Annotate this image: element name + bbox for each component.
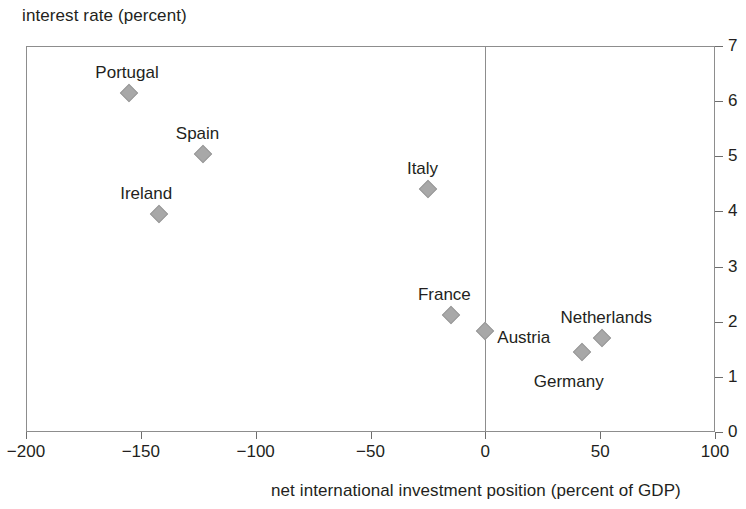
plot-border-left [26, 46, 27, 432]
y-axis-tick [715, 377, 723, 378]
data-point-marker[interactable] [194, 144, 212, 162]
x-axis-tick-label: −200 [7, 442, 45, 462]
y-axis-tick-label: 6 [728, 91, 737, 111]
data-point-marker[interactable] [419, 180, 437, 198]
data-point-label: Spain [176, 124, 219, 143]
data-point-marker[interactable] [593, 329, 611, 347]
x-axis-tick-label: −100 [237, 442, 275, 462]
y-axis-tick [715, 322, 723, 323]
data-point-marker[interactable] [150, 204, 168, 222]
y-axis-tick-label: 2 [728, 312, 737, 332]
y-axis-title: interest rate (percent) [22, 6, 187, 26]
x-axis-tick-label: 100 [701, 442, 729, 462]
zero-reference-line [485, 46, 486, 432]
y-axis-tick-label: 3 [728, 257, 737, 277]
y-axis-tick [715, 432, 723, 433]
data-point-label: Ireland [120, 184, 172, 203]
x-axis-tick [485, 432, 486, 439]
data-point-label: Portugal [95, 63, 158, 82]
data-point-label: Germany [534, 372, 604, 391]
data-point-marker[interactable] [120, 84, 138, 102]
scatter-chart-figure: interest rate (percent) −200−150−100−500… [0, 0, 746, 509]
x-axis-tick [26, 432, 27, 439]
x-axis-tick [256, 432, 257, 439]
data-point-marker[interactable] [442, 306, 460, 324]
y-axis-tick-label: 7 [728, 36, 737, 56]
x-axis-tick [141, 432, 142, 439]
y-axis-tick-label: 5 [728, 146, 737, 166]
data-point-label: Italy [407, 159, 438, 178]
data-point-marker[interactable] [573, 343, 591, 361]
x-axis-tick [371, 432, 372, 439]
data-point-label: Austria [497, 328, 550, 347]
data-point-label: France [418, 285, 471, 304]
plot-area: −200−150−100−50050100 01234567 PortugalS… [26, 46, 715, 432]
x-axis-tick [600, 432, 601, 439]
y-axis-tick-label: 0 [728, 422, 737, 442]
x-axis-title: net international investment position (p… [271, 481, 681, 501]
y-axis-tick [715, 156, 723, 157]
y-axis-line [714, 46, 715, 432]
x-axis-tick [715, 432, 716, 439]
data-point-marker[interactable] [476, 322, 494, 340]
y-axis-tick [715, 211, 723, 212]
x-axis-tick-label: 0 [481, 442, 490, 462]
y-axis-tick-label: 4 [728, 201, 737, 221]
plot-border-top [26, 46, 715, 47]
x-axis-tick-label: 50 [591, 442, 610, 462]
data-point-label: Netherlands [560, 308, 652, 327]
y-axis-tick [715, 46, 723, 47]
y-axis-tick [715, 267, 723, 268]
x-axis-tick-label: −50 [356, 442, 385, 462]
y-axis-tick-label: 1 [728, 367, 737, 387]
y-axis-tick [715, 101, 723, 102]
x-axis-tick-label: −150 [122, 442, 160, 462]
